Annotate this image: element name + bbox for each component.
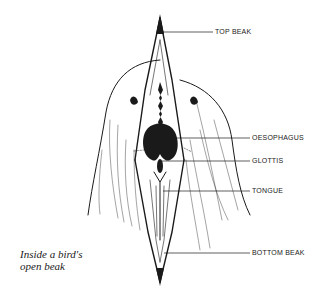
- caption-line-2: open beak: [20, 260, 82, 272]
- oesophagus-shape: [143, 124, 178, 161]
- left-eye: [130, 96, 138, 104]
- label-bottom-beak: BOTTOM BEAK: [252, 249, 305, 257]
- label-glottis: GLOTTIS: [252, 157, 283, 165]
- beak-diagram: TOP BEAK OESOPHAGUS GLOTTIS TONGUE BOTTO…: [0, 0, 322, 291]
- label-oesophagus: OESOPHAGUS: [252, 134, 304, 142]
- right-eye: [190, 96, 198, 104]
- label-top-beak: TOP BEAK: [215, 28, 251, 36]
- caption-line-1: Inside a bird's: [20, 248, 82, 260]
- diagram-caption: Inside a bird's open beak: [20, 248, 82, 272]
- label-tongue: TONGUE: [252, 187, 283, 195]
